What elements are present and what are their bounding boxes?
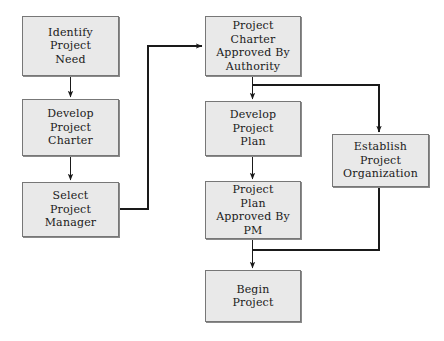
node-project-plan-approved-by-pm[interactable]: Project Plan Approved By PM: [205, 181, 301, 239]
node-label: Project Plan Approved By PM: [206, 183, 300, 237]
node-label: Select Project Manager: [23, 189, 118, 230]
node-develop-project-charter[interactable]: Develop Project Charter: [22, 99, 119, 156]
edge-select-pm-to-charter-approved: [119, 46, 202, 209]
node-begin-project[interactable]: Begin Project: [205, 270, 301, 322]
node-project-charter-approved-by-authority[interactable]: Project Charter Approved By Authority: [205, 16, 301, 76]
node-label: Project Charter Approved By Authority: [206, 19, 300, 73]
node-label: Develop Project Charter: [23, 107, 118, 148]
node-label: Develop Project Plan: [206, 108, 300, 149]
node-label: Begin Project: [206, 283, 300, 310]
node-establish-project-organization[interactable]: Establish Project Organization: [332, 134, 429, 187]
node-label: Identify Project Need: [23, 26, 118, 67]
node-select-project-manager[interactable]: Select Project Manager: [22, 182, 119, 237]
node-develop-project-plan[interactable]: Develop Project Plan: [205, 101, 301, 156]
flowchart-canvas: Identify Project Need Develop Project Ch…: [0, 0, 444, 341]
node-identify-project-need[interactable]: Identify Project Need: [22, 16, 119, 76]
node-label: Establish Project Organization: [333, 140, 428, 181]
